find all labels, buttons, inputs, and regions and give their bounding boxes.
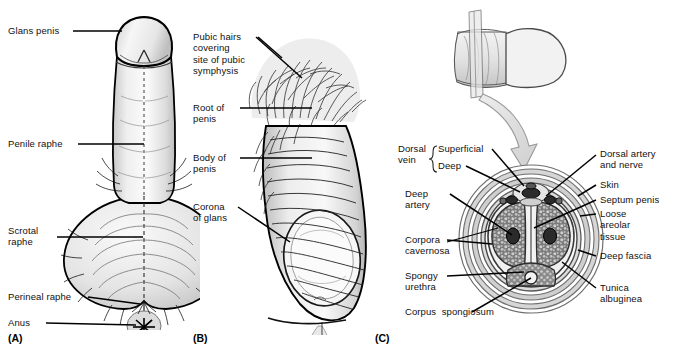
label-corpora-cavernosa: Corpora cavernosa [405, 234, 450, 257]
label-loose-areolar-tissue: Loose areolar tissue [600, 208, 630, 242]
panel-tag-b: (B) [193, 332, 208, 344]
section-arrow [479, 94, 537, 170]
label-deep-artery: Deep artery [405, 188, 430, 211]
label-penile-raphe: Penile raphe [8, 138, 63, 149]
label-spongy-urethra: Spongy urethra [405, 270, 438, 293]
deep-dorsal-vein [522, 188, 540, 198]
label-pubic-hairs: Pubic hairs covering site of pubic symph… [193, 31, 245, 77]
panel-c-artwork [454, 10, 603, 313]
panel-tag-c: (C) [375, 332, 390, 344]
superficial-dorsal-vein [526, 183, 536, 189]
figure-artwork [0, 0, 676, 349]
label-deep: Deep [438, 160, 461, 171]
label-body-of-penis: Body of penis [193, 152, 226, 175]
label-tunica-albuginea: Tunica albuginea [600, 282, 642, 305]
label-glans-penis: Glans penis [8, 25, 59, 36]
label-dorsal-vein: Dorsal vein [398, 143, 426, 166]
label-anus: Anus [8, 317, 30, 328]
anatomical-figure: Glans penis Penile raphe Scrotal raphe P… [0, 0, 676, 349]
label-septum-penis: Septum penis [600, 194, 659, 205]
label-root-of-penis: Root of penis [193, 102, 224, 125]
label-scrotal-raphe: Scrotal raphe [8, 225, 38, 248]
label-corpus-spongiosum: Corpus spongiosum [405, 306, 494, 317]
label-deep-fascia: Deep fascia [600, 250, 651, 261]
label-dorsal-artery-and-nerve: Dorsal artery and nerve [600, 148, 656, 171]
deep-artery-right [544, 228, 557, 244]
label-superficial: Superficial [438, 143, 483, 154]
leader-anus [46, 323, 136, 325]
label-perineal-raphe: Perineal raphe [8, 291, 71, 302]
label-skin: Skin [600, 179, 619, 190]
panel-tag-a: (A) [8, 332, 23, 344]
spongy-urethra-shape [525, 272, 537, 285]
label-corona-of-glans: Corona of glans [193, 201, 227, 224]
dorsal-vein-brace [429, 146, 437, 172]
section-plane-inset [454, 10, 565, 98]
leader-pubic-hairs-2 [258, 37, 282, 58]
panel-b-artwork [249, 38, 366, 349]
deep-artery-left [507, 228, 520, 244]
